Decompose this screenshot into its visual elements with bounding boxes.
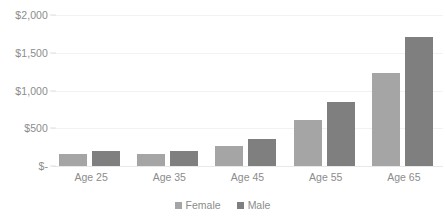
bar-group	[365, 15, 443, 166]
legend-label: Male	[248, 199, 271, 211]
x-axis-category-label: Age 35	[130, 171, 208, 183]
y-axis-tick-mark	[50, 15, 56, 16]
x-axis-category-label: Age 55	[287, 171, 365, 183]
y-axis-tick-mark	[50, 128, 56, 129]
bar-female[interactable]	[59, 154, 87, 166]
bar-male[interactable]	[248, 139, 276, 166]
y-axis-tick-label: $2,000	[2, 9, 48, 21]
x-axis-category-label: Age 45	[208, 171, 286, 183]
x-axis-category-label: Age 65	[365, 171, 443, 183]
legend-item-male[interactable]: Male	[237, 199, 271, 211]
bar-female[interactable]	[137, 154, 165, 166]
y-axis-tick-label: $-	[2, 160, 48, 172]
gridline	[52, 166, 443, 167]
bar-group	[52, 15, 130, 166]
y-axis-tick-mark	[50, 52, 56, 53]
bar-group	[287, 15, 365, 166]
bar-chart: $-$500$1,000$1,500$2,000 FemaleMale Age …	[0, 0, 445, 219]
bar-group	[208, 15, 286, 166]
y-axis-tick-label: $500	[2, 122, 48, 134]
bar-group	[130, 15, 208, 166]
x-axis-category-label: Age 25	[52, 171, 130, 183]
y-axis-tick-label: $1,000	[2, 85, 48, 97]
y-axis-tick-label: $1,500	[2, 47, 48, 59]
bar-female[interactable]	[215, 146, 243, 166]
bar-male[interactable]	[92, 151, 120, 166]
bar-male[interactable]	[405, 37, 433, 166]
legend-item-female[interactable]: Female	[175, 199, 221, 211]
y-axis-tick-mark	[50, 90, 56, 91]
legend-swatch-icon	[237, 202, 244, 209]
bar-female[interactable]	[372, 73, 400, 166]
bar-female[interactable]	[294, 120, 322, 166]
bar-male[interactable]	[327, 102, 355, 166]
plot-area	[52, 15, 443, 166]
y-axis-tick-mark	[50, 166, 56, 167]
chart-legend: FemaleMale	[0, 199, 445, 211]
legend-label: Female	[186, 199, 221, 211]
legend-swatch-icon	[175, 202, 182, 209]
y-axis: $-$500$1,000$1,500$2,000	[0, 0, 48, 219]
bar-male[interactable]	[170, 151, 198, 166]
